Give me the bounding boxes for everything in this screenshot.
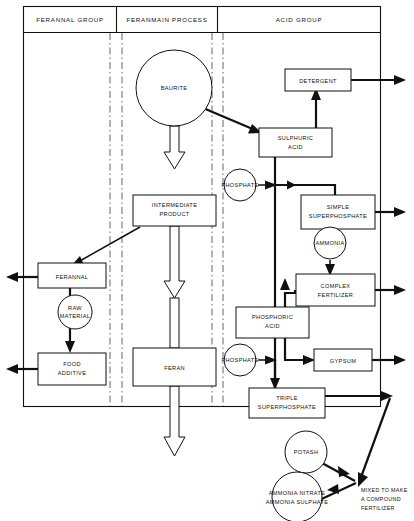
node-complex-fertilizer-label-2: FERTILIZER bbox=[318, 292, 353, 298]
edge-feran-to-bottom-output bbox=[164, 386, 185, 456]
edge-triple-superphosphate-to-compound bbox=[325, 391, 393, 487]
process-flow-diagram: FERANNAL GROUP FERANMAIN PROCESS ACID GR… bbox=[0, 0, 414, 521]
node-triple-superphosphate-label-1: TRIPLE bbox=[276, 395, 298, 401]
node-simple-superphosphate-label-2: SUPERPHOSPHATE bbox=[309, 213, 367, 219]
node-complex-fertilizer[interactable]: COMPLEX FERTILIZER bbox=[296, 274, 375, 306]
edge-simple-superphosphate-to-right-output bbox=[375, 207, 406, 217]
node-ammonia-salts-label-1: AMMONIA NITRATE bbox=[269, 490, 326, 496]
column-header-ferannal-group: FERANNAL GROUP bbox=[36, 16, 104, 23]
edge-intermediate-to-ferannal bbox=[70, 227, 140, 267]
node-intermediate-product[interactable]: INTERMEDIATE PRODUCT bbox=[133, 195, 216, 226]
node-triple-superphosphate[interactable]: TRIPLE SUPERPHOSPHATE bbox=[249, 388, 325, 418]
node-food-additive[interactable]: FOOD ADDITIVE bbox=[38, 353, 106, 385]
node-gypsum-label: GYPSUM bbox=[330, 358, 356, 364]
node-phosphoric-acid-label-1: PHOSPHORIC bbox=[252, 314, 293, 320]
column-divider-ferannal-feranmain bbox=[110, 33, 122, 406]
node-phosphoric-acid-label-2: ACID bbox=[265, 323, 280, 329]
node-sulphuric-acid[interactable]: SULPHURIC ACID bbox=[259, 128, 332, 157]
edge-potash-to-compound bbox=[322, 463, 355, 481]
note-compound-line-3: FERTILIZER bbox=[361, 505, 395, 511]
note-compound-line-1: MIXED TO MAKE bbox=[361, 487, 408, 493]
edge-complex-fertilizer-to-right-output bbox=[375, 285, 406, 295]
node-ferannal[interactable]: FERANNAL bbox=[38, 263, 106, 288]
node-sulphuric-acid-label-1: SULPHURIC bbox=[278, 135, 313, 141]
node-sulphuric-acid-label-2: ACID bbox=[288, 144, 303, 150]
node-complex-fertilizer-label-1: COMPLEX bbox=[321, 283, 351, 289]
column-header-acid-group: ACID GROUP bbox=[276, 16, 323, 23]
node-raw-material-label-1: RAW bbox=[68, 305, 82, 311]
edge-gypsum-to-right-output bbox=[372, 355, 406, 365]
node-raw-material[interactable]: RAW MATERIAL bbox=[58, 295, 92, 329]
node-food-additive-label-2: ADDITIVE bbox=[58, 370, 87, 376]
node-phosphate-lower[interactable]: PHOSPHATE bbox=[221, 344, 258, 376]
edge-sulphuric-acid-to-detergent bbox=[311, 88, 321, 128]
node-food-additive-label-1: FOOD bbox=[63, 361, 81, 367]
node-ammonia[interactable]: AMMONIA bbox=[314, 227, 346, 259]
node-simple-superphosphate[interactable]: SIMPLE SUPERPHOSPHATE bbox=[301, 195, 375, 229]
column-header-feranmain-process: FERANMAIN PROCESS bbox=[126, 16, 207, 23]
note-compound-fertilizer: MIXED TO MAKE A COMPOUND FERTILIZER bbox=[361, 487, 408, 511]
edge-sulphuric-to-simple-superphosphate bbox=[275, 181, 335, 196]
node-baurite[interactable]: BAURITE bbox=[136, 50, 212, 126]
node-phosphate-upper-label: PHOSPHATE bbox=[221, 182, 258, 188]
edge-phosphoric-acid-to-complex-fertilizer bbox=[280, 278, 297, 310]
note-compound-line-2: A COMPOUND bbox=[361, 496, 401, 502]
node-triple-superphosphate-label-2: SUPERPHOSPHATE bbox=[258, 404, 316, 410]
node-phosphate-lower-label: PHOSPHATE bbox=[221, 357, 258, 363]
edge-baurite-to-intermediate bbox=[164, 126, 185, 169]
node-feran-label: FERAN bbox=[164, 365, 185, 371]
node-ferannal-label: FERANNAL bbox=[56, 274, 89, 280]
node-phosphate-upper[interactable]: PHOSPHATE bbox=[221, 169, 258, 201]
node-ammonia-salts-label-2: AMMONIA SULPHATE bbox=[266, 499, 329, 505]
node-baurite-label: BAURITE bbox=[161, 85, 188, 91]
node-potash[interactable]: POTASH bbox=[285, 431, 327, 473]
node-gypsum[interactable]: GYPSUM bbox=[314, 349, 372, 371]
edge-detergent-to-right-output bbox=[351, 75, 406, 85]
node-intermediate-product-label-1: INTERMEDIATE bbox=[152, 202, 197, 208]
node-ammonia-label: AMMONIA bbox=[315, 240, 344, 246]
node-ammonia-salts[interactable]: AMMONIA NITRATE AMMONIA SULPHATE bbox=[266, 472, 329, 521]
node-simple-superphosphate-label-1: SIMPLE bbox=[327, 204, 350, 210]
node-raw-material-label-2: MATERIAL bbox=[60, 313, 90, 319]
edge-trunk-to-triple-superphosphate bbox=[270, 360, 280, 390]
node-intermediate-product-label-2: PRODUCT bbox=[159, 211, 189, 217]
node-feran[interactable]: FERAN bbox=[133, 348, 216, 386]
node-detergent[interactable]: DETERGENT bbox=[285, 69, 351, 91]
node-detergent-label: DETERGENT bbox=[299, 78, 337, 84]
edge-intermediate-to-feran bbox=[164, 226, 185, 348]
node-potash-label: POTASH bbox=[294, 449, 319, 455]
node-phosphoric-acid[interactable]: PHOSPHORIC ACID bbox=[236, 307, 309, 338]
